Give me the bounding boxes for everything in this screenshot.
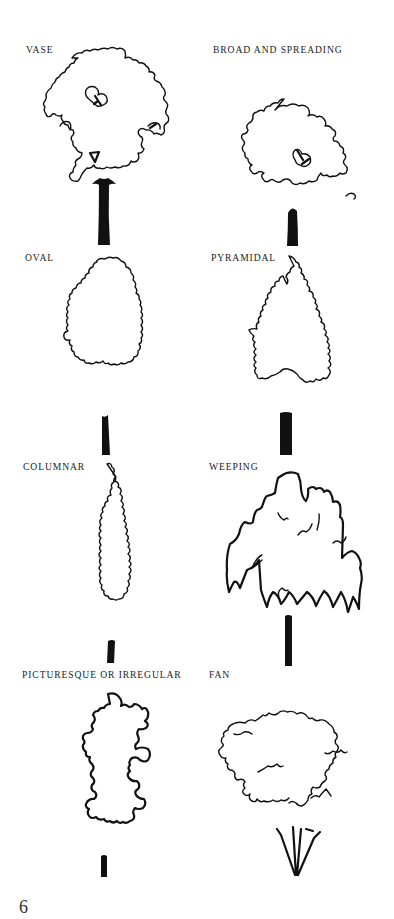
tree-illustrations	[0, 0, 394, 919]
oval-tree-icon	[64, 257, 143, 455]
picturesque-irregular-tree-icon	[83, 693, 150, 877]
weeping-tree-icon	[227, 472, 362, 666]
fan-tree-icon	[219, 711, 347, 875]
broad-and-spreading-tree-icon	[242, 99, 356, 246]
pyramidal-tree-icon	[249, 256, 331, 455]
vase-tree-icon	[44, 48, 169, 246]
columnar-tree-icon	[99, 463, 131, 663]
